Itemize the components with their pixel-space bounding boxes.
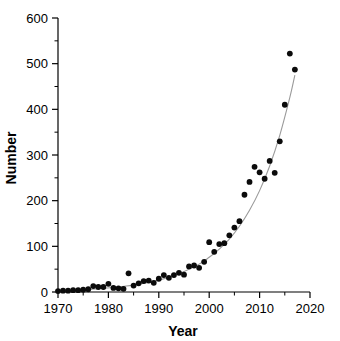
y-tick-label: 400 — [26, 102, 48, 117]
data-point — [126, 270, 132, 276]
data-point — [272, 170, 278, 176]
data-point — [201, 259, 207, 265]
data-point — [95, 284, 101, 290]
data-point — [262, 176, 268, 182]
data-point — [55, 288, 61, 294]
data-point — [221, 240, 227, 246]
data-point — [216, 241, 222, 247]
x-tick-label: 1970 — [44, 301, 73, 316]
data-point — [232, 225, 238, 231]
data-point — [116, 285, 122, 291]
data-point — [136, 280, 142, 286]
data-point — [252, 164, 258, 170]
tick-label-layer: 0100200300400500600197019801990200020102… — [26, 11, 324, 317]
data-point — [65, 288, 71, 294]
data-point — [171, 272, 177, 278]
fit-curve-layer — [78, 75, 295, 290]
data-point — [211, 249, 217, 255]
data-point — [156, 276, 162, 282]
data-point — [80, 287, 86, 293]
data-point — [242, 192, 248, 198]
data-point — [277, 138, 283, 144]
data-point — [237, 218, 243, 224]
data-point — [141, 278, 147, 284]
data-point — [176, 270, 182, 276]
data-points-layer — [55, 51, 298, 294]
y-tick-label: 600 — [26, 11, 48, 26]
data-point — [106, 281, 112, 287]
data-point — [166, 275, 172, 281]
data-point — [257, 169, 263, 175]
y-axis-title: Number — [3, 131, 19, 184]
y-tick-label: 200 — [26, 193, 48, 208]
data-point — [191, 263, 197, 269]
fit-curve — [78, 75, 295, 290]
scatter-plot: 0100200300400500600197019801990200020102… — [0, 0, 340, 341]
data-point — [121, 286, 127, 292]
data-point — [282, 102, 288, 108]
y-tick-label: 0 — [41, 285, 48, 300]
data-point — [196, 265, 202, 271]
data-point — [146, 278, 152, 284]
axes-layer — [52, 18, 310, 298]
data-point — [206, 239, 212, 245]
data-point — [181, 272, 187, 278]
data-point — [60, 288, 66, 294]
y-tick-label: 500 — [26, 56, 48, 71]
x-tick-label: 1980 — [94, 301, 123, 316]
data-point — [267, 158, 273, 164]
chart-container: 0100200300400500600197019801990200020102… — [0, 0, 340, 341]
x-tick-label: 2020 — [296, 301, 325, 316]
x-tick-label: 2000 — [195, 301, 224, 316]
data-point — [131, 283, 137, 289]
data-point — [90, 283, 96, 289]
x-tick-label: 1990 — [144, 301, 173, 316]
data-point — [161, 272, 167, 278]
data-point — [100, 284, 106, 290]
data-point — [247, 179, 253, 185]
data-point — [70, 287, 76, 293]
data-point — [226, 232, 232, 238]
data-point — [292, 67, 298, 73]
data-point — [111, 285, 117, 291]
y-tick-label: 300 — [26, 148, 48, 163]
data-point — [151, 280, 157, 286]
data-point — [287, 51, 293, 57]
data-point — [85, 286, 91, 292]
data-point — [186, 264, 192, 270]
x-tick-label: 2010 — [245, 301, 274, 316]
y-tick-label: 100 — [26, 239, 48, 254]
data-point — [75, 287, 81, 293]
x-axis-title: Year — [168, 323, 198, 339]
